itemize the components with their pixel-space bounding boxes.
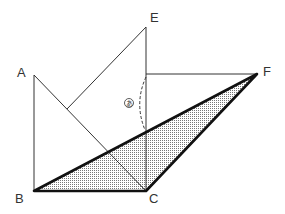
- label-e: E: [150, 10, 159, 25]
- angle-marker-label: あ: [126, 100, 133, 108]
- label-c: C: [149, 191, 158, 206]
- angle-arc-dashed: [140, 77, 146, 130]
- label-b: B: [15, 191, 24, 206]
- segment-e-to-ac: [67, 27, 146, 109]
- label-a: A: [17, 65, 26, 80]
- label-f: F: [263, 64, 271, 79]
- geometry-diagram: あ A B C E F: [0, 0, 285, 214]
